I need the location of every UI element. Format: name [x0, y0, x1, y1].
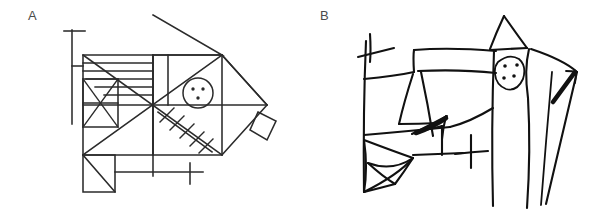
inner-triangle	[399, 74, 438, 124]
figure-root: A	[0, 0, 601, 217]
panel-a: A	[0, 0, 300, 217]
circle-with-three-dots	[183, 78, 213, 108]
bottom-left-square-diagonal	[83, 155, 115, 192]
panel-b-drawing	[300, 0, 601, 217]
scribbled-arrow-cluster	[412, 116, 463, 155]
panel-b: B	[300, 0, 601, 217]
long-vertical-stroke-2	[526, 49, 529, 208]
long-vertical-stroke-1	[492, 51, 494, 206]
blob-with-four-dots	[495, 57, 525, 90]
panel-a-drawing	[0, 0, 300, 217]
fan-triangle-cluster	[364, 140, 413, 192]
right-triangle-inner	[222, 55, 267, 105]
top-triangle	[153, 15, 222, 55]
roof-peak-triangle	[490, 16, 527, 50]
upper-slanted-band	[364, 49, 496, 79]
left-cross	[358, 34, 394, 62]
right-wedge-outline	[531, 49, 577, 204]
right-diamond	[250, 112, 276, 140]
lower-cross	[455, 135, 488, 168]
